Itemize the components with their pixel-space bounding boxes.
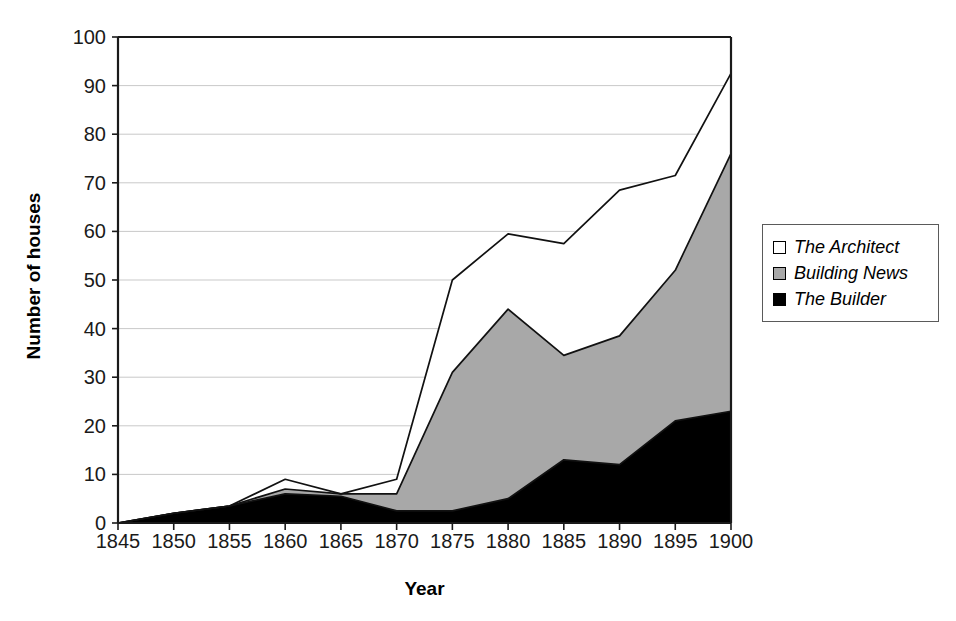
- legend-swatch-icon: [773, 267, 786, 280]
- legend-item: The Architect: [773, 234, 930, 260]
- legend-swatch-icon: [773, 241, 786, 254]
- x-axis-tick-label: 1890: [597, 531, 642, 551]
- x-axis-tick-label: 1870: [374, 531, 419, 551]
- y-axis-tick-label: 50: [30, 270, 106, 290]
- stacked-area-chart: Number of houses 0102030405060708090100 …: [0, 0, 956, 621]
- x-axis-tick-label: 1865: [319, 531, 364, 551]
- x-axis-tick-label: 1880: [486, 531, 531, 551]
- legend-swatch-icon: [773, 293, 786, 306]
- legend-item: The Builder: [773, 286, 930, 312]
- y-axis-tick-label: 40: [30, 319, 106, 339]
- y-axis-tick-label: 70: [30, 173, 106, 193]
- chart-legend: The ArchitectBuilding NewsThe Builder: [762, 224, 939, 322]
- series-areas: [118, 73, 731, 523]
- x-axis-tick-label: 1850: [151, 531, 196, 551]
- legend-label: The Architect: [794, 237, 899, 258]
- y-axis-tick-label: 30: [30, 367, 106, 387]
- x-axis-tick-label: 1885: [542, 531, 587, 551]
- y-axis-tick-label: 80: [30, 124, 106, 144]
- x-axis-ticks: 1845185018551860186518701875188018851890…: [118, 531, 731, 561]
- legend-item: Building News: [773, 260, 930, 286]
- y-axis-ticks: 0102030405060708090100: [30, 0, 106, 486]
- y-axis-tick-label: 20: [30, 416, 106, 436]
- x-axis-tick-label: 1895: [653, 531, 698, 551]
- x-axis-tick-label: 1845: [96, 531, 141, 551]
- y-axis-tick-label: 0: [30, 513, 106, 533]
- legend-label: Building News: [794, 263, 908, 284]
- x-axis-tick-label: 1875: [430, 531, 475, 551]
- x-axis-tick-label: 1855: [207, 531, 252, 551]
- y-axis-tick-label: 60: [30, 221, 106, 241]
- y-axis-tick-label: 10: [30, 464, 106, 484]
- x-axis-title: Year: [118, 578, 731, 600]
- y-axis-tick-label: 90: [30, 76, 106, 96]
- x-axis-tick-label: 1860: [263, 531, 308, 551]
- y-axis-tick-label: 100: [30, 27, 106, 47]
- legend-label: The Builder: [794, 289, 886, 310]
- x-axis-tick-label: 1900: [709, 531, 754, 551]
